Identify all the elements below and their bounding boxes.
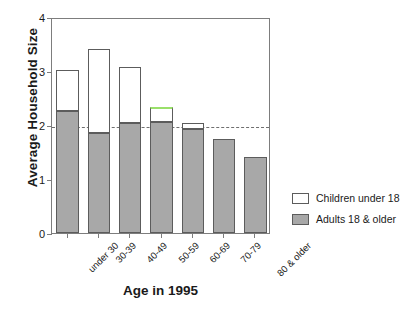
plot-inner	[52, 19, 269, 233]
legend-item-children: Children under 18	[292, 192, 399, 204]
y-tick-label: 1	[21, 174, 45, 186]
y-tick-label: 3	[21, 66, 45, 78]
chart-legend: Children under 18 Adults 18 & older	[292, 192, 399, 234]
bar-segment-children[interactable]	[150, 107, 173, 122]
y-tick-label: 4	[21, 12, 45, 24]
y-tick-label: 0	[21, 228, 45, 240]
x-tick-mark	[129, 234, 130, 238]
x-tick-mark	[67, 234, 68, 238]
legend-label-adults: Adults 18 & older	[316, 213, 396, 225]
bar-segment-adults[interactable]	[244, 157, 267, 233]
x-tick-mark	[223, 234, 224, 238]
y-tick-mark	[47, 234, 52, 235]
bar-group[interactable]	[56, 17, 79, 233]
bar-segment-adults[interactable]	[213, 139, 236, 233]
x-axis-title: Age in 1995	[51, 283, 270, 298]
bar-group[interactable]	[150, 17, 173, 233]
bar-group[interactable]	[182, 17, 205, 233]
bar-segment-adults[interactable]	[119, 123, 142, 233]
bar-segment-adults[interactable]	[88, 133, 111, 233]
bar-segment-children[interactable]	[88, 49, 111, 133]
x-category-label: 80 & older	[275, 240, 313, 278]
bar-group[interactable]	[213, 17, 236, 233]
legend-swatch-children-icon	[292, 193, 309, 204]
bar-group[interactable]	[88, 17, 111, 233]
legend-label-children: Children under 18	[316, 192, 399, 204]
x-category-label: 60-69	[207, 240, 232, 265]
x-tick-mark	[192, 234, 193, 238]
bar-segment-children[interactable]	[56, 70, 79, 111]
legend-item-adults: Adults 18 & older	[292, 213, 399, 225]
x-tick-mark	[98, 234, 99, 238]
x-category-label: 70-79	[238, 240, 263, 265]
x-tick-mark	[161, 234, 162, 238]
x-category-label: 40-49	[144, 240, 169, 265]
x-tick-mark	[254, 234, 255, 238]
bar-segment-adults[interactable]	[150, 122, 173, 233]
bar-segment-children[interactable]	[119, 67, 142, 123]
bar-segment-children[interactable]	[182, 123, 205, 129]
legend-swatch-adults-icon	[292, 214, 309, 225]
bar-segment-adults[interactable]	[182, 129, 205, 233]
x-category-label: 50-59	[176, 240, 201, 265]
plot-area	[51, 18, 270, 234]
bar-group[interactable]	[119, 17, 142, 233]
chart-figure: Average Household Size 01234 under 3030-…	[0, 0, 408, 314]
bar-segment-adults[interactable]	[56, 111, 79, 233]
y-tick-label: 2	[21, 120, 45, 132]
bar-group[interactable]	[244, 17, 267, 233]
